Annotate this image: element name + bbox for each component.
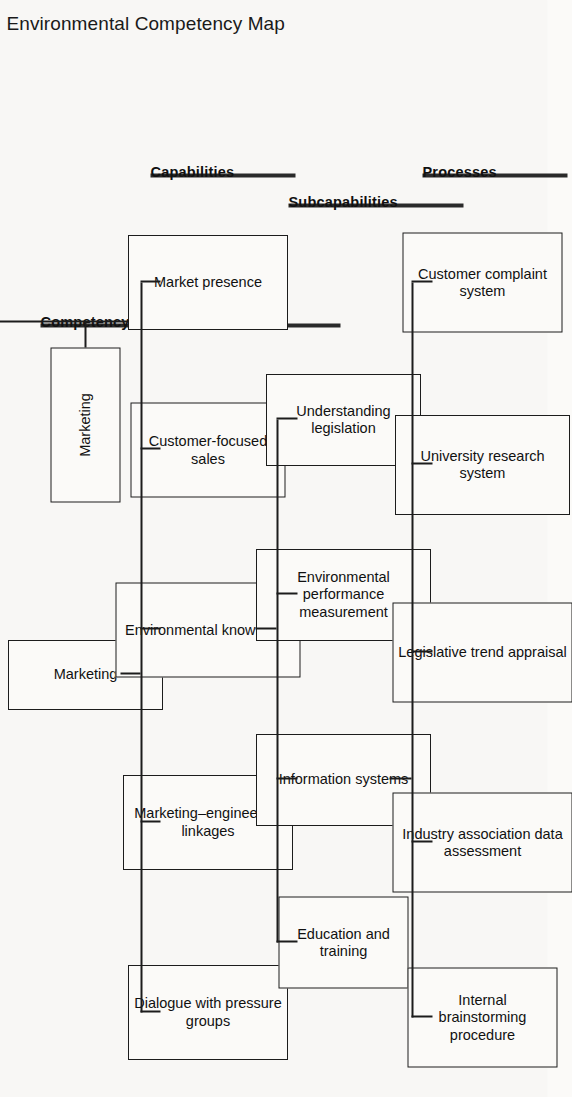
- connector-capabilities-branch-1: [140, 448, 160, 450]
- connector-subcapabilities-spine: [276, 420, 278, 943]
- connector-capabilities-branch-4: [140, 1010, 160, 1012]
- connector-capabilities-spine: [140, 282, 142, 1012]
- connector-capabilities-branch-3: [140, 820, 160, 822]
- connector-capabilities-to-subcapabilities-stub: [255, 628, 276, 630]
- connector-processes-spine: [411, 282, 413, 1017]
- connector-processes-branch-4: [411, 1015, 433, 1017]
- connector-subcapabilities-branch-2: [276, 778, 297, 780]
- tier-label-capabilities: Capabilities: [150, 163, 234, 179]
- connector-competency-stub: [84, 321, 86, 347]
- connector-subcapabilities-branch-0: [276, 418, 297, 420]
- node-processes-4-label: Internal brainstorming procedure: [412, 991, 552, 1042]
- connector-capabilities-branch-0: [140, 280, 160, 282]
- tier-label-processes: Processes: [422, 163, 496, 179]
- connector-processes-branch-2: [411, 650, 433, 652]
- connector-subcapabilities-branch-1: [276, 593, 297, 595]
- connector-competency-to-capabilities-stub: [120, 673, 140, 675]
- tier-label-subcapabilities: Subcapabilities: [288, 193, 397, 209]
- node-competency-0-label: Marketing: [76, 393, 93, 457]
- node-subcapabilities-3[interactable]: Education and training: [278, 896, 408, 988]
- connector-capabilities-branch-2: [140, 628, 160, 630]
- connector-processes-branch-3: [411, 840, 433, 842]
- connector-subcapabilities-branch-3: [276, 940, 297, 942]
- connector-subcapabilities-to-processes-stub: [389, 778, 411, 780]
- node-competency-0[interactable]: Marketing: [50, 347, 120, 502]
- node-subcapabilities-3-label: Education and training: [283, 925, 403, 959]
- connector-processes-branch-0: [411, 280, 433, 282]
- connector-processes-branch-1: [411, 463, 433, 465]
- page-title: Environmental Competency Map: [6, 12, 284, 34]
